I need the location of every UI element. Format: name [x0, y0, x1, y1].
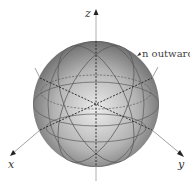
- x-label: x: [8, 158, 15, 171]
- n-outward-label: n outward: [142, 48, 190, 59]
- y-axis: [152, 130, 182, 155]
- y-arrow-icon: [177, 150, 184, 157]
- y-label: y: [177, 158, 185, 171]
- z-label: z: [84, 7, 91, 20]
- sphere-diagram: z x y n outward: [0, 0, 190, 181]
- x-axis: [12, 130, 40, 154]
- z-arrow-icon: [94, 9, 99, 15]
- n-outward-vector: [152, 67, 158, 78]
